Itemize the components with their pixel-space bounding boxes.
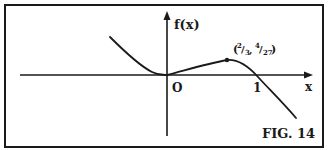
- point-close-paren: ): [271, 43, 276, 56]
- x-axis-arrow-icon: [304, 72, 313, 79]
- x-tick-1-label: 1: [253, 81, 261, 95]
- figure-caption: FIG. 14: [262, 126, 315, 141]
- y-axis-arrow-icon: [164, 11, 171, 20]
- function-plot: f(x) x O 1 ( 2 / 3 , 4 / 27 ) FIG. 14: [0, 0, 328, 150]
- y-axis-label: f(x): [174, 17, 200, 32]
- maximum-point-label: ( 2 / 3 , 4 / 27 ): [233, 41, 276, 57]
- origin-label: O: [172, 81, 182, 95]
- maximum-point-marker: [225, 58, 229, 62]
- x-axis-label: x: [305, 80, 313, 94]
- point-separator: ,: [249, 44, 252, 56]
